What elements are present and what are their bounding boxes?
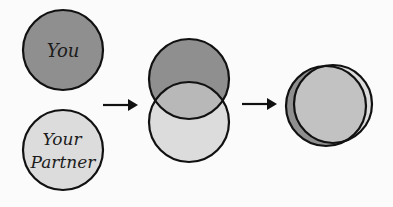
arrow-right-icon: [242, 98, 277, 110]
stage-separate: You Your Partner: [23, 10, 103, 190]
partner-label-line1: Your: [42, 129, 82, 149]
you-label: You: [47, 40, 80, 61]
partner-circle: [23, 110, 103, 190]
partner-label-line2: Partner: [30, 152, 97, 172]
stage-overlapping: [149, 39, 229, 162]
stage-merged: [286, 65, 372, 146]
arrow-right-icon: [103, 99, 138, 111]
relationship-venn-diagram: You Your Partner: [0, 0, 393, 207]
